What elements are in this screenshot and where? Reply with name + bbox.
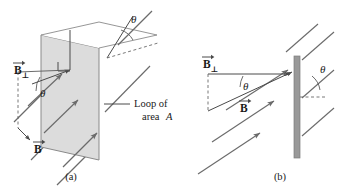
b-perp-subscript-b: ⊥ [211,65,219,74]
field-line-b3 [198,133,260,174]
panel-a-caption: (a) [65,171,77,183]
panel-a-group: θ θ B ⊥ B Loop of area A [13,11,173,185]
theta-label-left-b: θ [243,80,249,92]
panel-b-field-lines-right [286,24,334,136]
theta-label-top-a: θ [131,13,137,25]
b-symbol-b: B [240,102,248,114]
panel-b-group: θ θ B ⊥ B (b) [198,24,334,183]
theta-label-left-a: θ [40,87,46,99]
figure-canvas: θ θ B ⊥ B Loop of area A [0,0,343,193]
panel-b-caption: (b) [274,171,287,183]
b-symbol-a: B [34,143,42,155]
b-label-group-b: B [239,99,251,114]
theta-label-right-b: θ [320,63,326,75]
loop-edge-on-bar [294,56,300,158]
b-vector-b [208,72,292,111]
field-line-b4-cont [286,24,318,52]
loop-annotation-line2-group: area A [142,111,173,122]
field-line-b3-cont [302,108,334,136]
b-perp-subscript-a: ⊥ [22,71,30,80]
b-perp-vector-hat-head-b [211,55,214,59]
field-line-b1 [226,70,288,110]
field-line-b1-cont [302,32,334,60]
loop-annotation-line1: Loop of [134,98,168,109]
b-perp-vector-hat-head-a [22,61,25,65]
physics-figure-magnetic-flux: θ θ B ⊥ B Loop of area A [0,0,343,193]
b-perp-label-group-b: B ⊥ [202,55,218,74]
b-vector-hat-head-b [248,99,251,103]
loop-annotation-line2-prefix: area [142,111,160,122]
loop-annotation-area-symbol: A [165,111,173,122]
b-perp-label-group-a: B ⊥ [13,61,29,80]
theta-construction-arrow-a [18,128,30,140]
